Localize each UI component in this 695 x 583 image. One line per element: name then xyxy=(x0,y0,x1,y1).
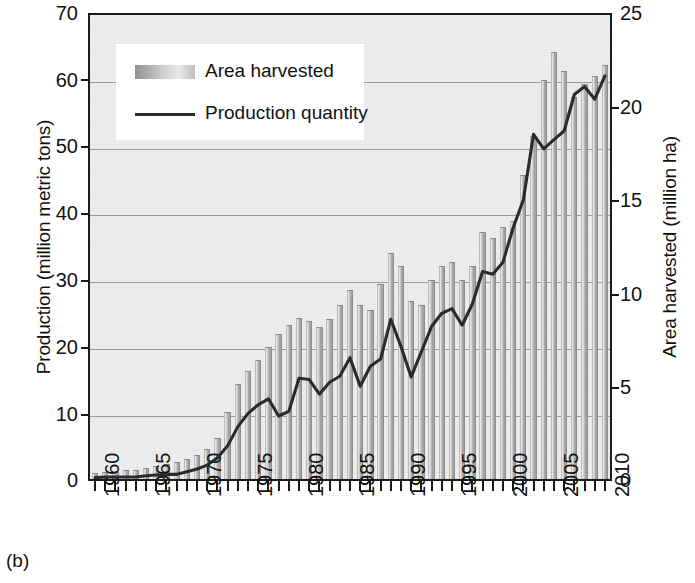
x-tickmark-1973 xyxy=(227,481,229,491)
x-tick-label-2000: 2000 xyxy=(510,453,530,498)
y-left-tick-50: 50 xyxy=(32,136,78,156)
y-left-tick-30: 30 xyxy=(32,270,78,290)
y-right-tickmark xyxy=(612,200,619,202)
x-tickmark-1995 xyxy=(451,481,453,491)
x-tick-label-1995: 1995 xyxy=(459,453,479,498)
x-tick-label-1985: 1985 xyxy=(357,453,377,498)
x-tickmark-2008 xyxy=(584,481,586,491)
bar-2002 xyxy=(520,175,526,479)
bar-1993 xyxy=(428,280,434,479)
y-axis-right-title: Area harvested (million ha) xyxy=(659,27,681,467)
bar-1984 xyxy=(337,305,343,479)
x-tickmark-1969 xyxy=(186,481,188,491)
x-tickmark-1975 xyxy=(247,481,249,491)
x-tickmark-1985 xyxy=(349,481,351,491)
y-right-tick-25: 25 xyxy=(620,3,666,23)
y-right-tick-10: 10 xyxy=(620,284,666,304)
x-tickmark-1983 xyxy=(329,481,331,491)
bar-1963 xyxy=(123,470,129,479)
y-left-tick-70: 70 xyxy=(32,3,78,23)
x-tick-label-2005: 2005 xyxy=(561,453,581,498)
y-right-tick-5: 5 xyxy=(620,377,666,397)
x-tick-label-1960: 1960 xyxy=(102,453,122,498)
bar-1996 xyxy=(459,280,465,479)
y-left-tick-60: 60 xyxy=(32,70,78,90)
bar-2004 xyxy=(541,80,547,479)
legend-label-production-quantity: Production quantity xyxy=(205,99,368,127)
x-tickmark-2009 xyxy=(594,481,596,491)
y-left-tickmark xyxy=(81,79,88,81)
x-tickmark-2003 xyxy=(533,481,535,491)
y-left-tick-40: 40 xyxy=(32,203,78,223)
bar-2000 xyxy=(500,227,506,479)
y-left-tick-20: 20 xyxy=(32,337,78,357)
bar-1979 xyxy=(286,325,292,479)
x-tick-label-1970: 1970 xyxy=(204,453,224,498)
x-tickmark-1994 xyxy=(441,481,443,491)
x-tickmark-1990 xyxy=(400,481,402,491)
bar-2003 xyxy=(530,136,536,479)
bar-1974 xyxy=(235,384,241,479)
y-left-tick-0: 0 xyxy=(32,470,78,490)
x-tickmark-2010 xyxy=(604,481,606,491)
y-left-tick-10: 10 xyxy=(32,404,78,424)
x-tickmark-1979 xyxy=(288,481,290,491)
y-left-tickmark xyxy=(81,414,88,416)
bar-1989 xyxy=(388,253,394,479)
bar-1968 xyxy=(174,462,180,479)
y-right-tick-20: 20 xyxy=(620,97,666,117)
bar-1985 xyxy=(347,290,353,479)
bar-1964 xyxy=(133,470,139,479)
x-tickmark-1984 xyxy=(339,481,341,491)
figure-caption: (b) xyxy=(6,550,29,572)
x-tickmark-1964 xyxy=(135,481,137,491)
x-tickmark-1963 xyxy=(125,481,127,491)
x-tickmark-1999 xyxy=(492,481,494,491)
x-tick-label-2010: 2010 xyxy=(612,453,632,498)
bar-1965 xyxy=(143,468,149,479)
legend-label-area-harvested: Area harvested xyxy=(205,57,334,85)
bar-1970 xyxy=(194,455,200,479)
bar-2006 xyxy=(561,71,567,479)
chart-figure: Production (million metric tons) Area ha… xyxy=(0,0,695,583)
y-left-tickmark xyxy=(81,146,88,148)
bar-2007 xyxy=(571,97,577,479)
y-right-tick-15: 15 xyxy=(620,190,666,210)
legend-line-swatch-icon xyxy=(135,113,195,116)
y-axis-left-title: Production (million metric tons) xyxy=(33,27,55,467)
y-right-tickmark xyxy=(612,294,619,296)
bar-1975 xyxy=(245,371,251,479)
legend-item-production-quantity: Production quantity xyxy=(117,95,363,135)
legend-bar-swatch-icon xyxy=(135,65,195,79)
x-tickmark-1965 xyxy=(145,481,147,491)
chart-legend: Area harvested Production quantity xyxy=(116,44,364,140)
y-left-tickmark xyxy=(81,213,88,215)
x-tickmark-1998 xyxy=(482,481,484,491)
x-tick-label-1975: 1975 xyxy=(255,453,275,498)
bar-2010 xyxy=(602,65,608,479)
x-tick-label-1990: 1990 xyxy=(408,453,428,498)
y-left-tickmark xyxy=(81,280,88,282)
bar-1960 xyxy=(92,473,98,479)
bar-1997 xyxy=(469,266,475,479)
bar-1980 xyxy=(296,318,302,479)
bar-2001 xyxy=(510,221,516,479)
bar-1983 xyxy=(326,319,332,479)
x-tickmark-1978 xyxy=(278,481,280,491)
x-tickmark-1988 xyxy=(380,481,382,491)
x-tick-label-1980: 1980 xyxy=(306,453,326,498)
y-left-tickmark xyxy=(81,347,88,349)
y-right-tickmark xyxy=(612,387,619,389)
x-tickmark-1989 xyxy=(390,481,392,491)
bar-1969 xyxy=(184,459,190,479)
x-tickmark-1993 xyxy=(431,481,433,491)
x-tickmark-1968 xyxy=(176,481,178,491)
bar-1978 xyxy=(275,334,281,479)
bar-2009 xyxy=(592,76,598,479)
bar-2008 xyxy=(581,84,587,479)
bar-1988 xyxy=(377,284,383,479)
bar-1998 xyxy=(479,232,485,479)
x-tick-label-1965: 1965 xyxy=(153,453,173,498)
bar-1995 xyxy=(449,262,455,479)
x-tickmark-2000 xyxy=(502,481,504,491)
